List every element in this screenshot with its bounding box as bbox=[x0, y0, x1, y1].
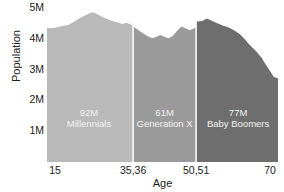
x-tick-label: 15 bbox=[49, 164, 61, 176]
x-axis-title: Age bbox=[47, 177, 278, 189]
x-tick-label: 70 bbox=[264, 164, 276, 176]
x-axis-ticks: 1535,3650,5170 bbox=[0, 0, 284, 192]
x-tick-label: 50,51 bbox=[183, 164, 209, 176]
x-tick-label: 35,36 bbox=[120, 164, 146, 176]
population-by-age-chart: Population 5M4M3M2M1M 92MMillennials61MG… bbox=[0, 0, 284, 192]
